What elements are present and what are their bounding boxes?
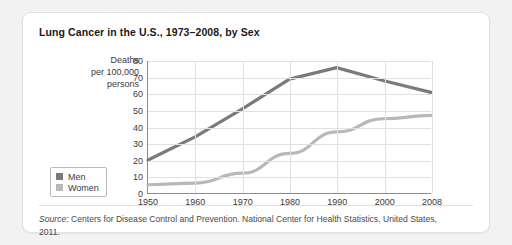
gridline-vertical bbox=[243, 61, 244, 193]
gridline-vertical bbox=[290, 61, 291, 193]
y-axis-label: Deaths per 100,000 persons bbox=[67, 54, 139, 91]
legend-item-women[interactable]: Women bbox=[56, 182, 99, 193]
legend-swatch-men bbox=[56, 173, 63, 180]
gridline-vertical bbox=[385, 61, 386, 193]
legend-item-men[interactable]: Men bbox=[56, 171, 99, 182]
legend-label-men: Men bbox=[68, 172, 86, 182]
y-axis-tick: 40 bbox=[133, 123, 143, 133]
y-axis-label-line-2: per 100,000 bbox=[67, 66, 139, 78]
legend-swatch-women bbox=[56, 184, 63, 191]
y-axis-label-line-3: persons bbox=[67, 78, 139, 90]
gridline-vertical bbox=[337, 61, 338, 193]
source-note: Source: Centers for Disease Control and … bbox=[39, 213, 459, 238]
chart-card: Lung Cancer in the U.S., 1973–2008, by S… bbox=[22, 12, 490, 233]
y-axis-label-line-1: Deaths bbox=[67, 54, 139, 66]
legend-label-women: Women bbox=[68, 183, 99, 193]
page-title: Lung Cancer in the U.S., 1973–2008, by S… bbox=[39, 26, 260, 38]
y-axis-tick: 50 bbox=[133, 106, 143, 116]
plot-area: 0102030405060708019501960197019801990200… bbox=[147, 61, 431, 194]
chart-legend: Men Women bbox=[50, 167, 107, 197]
y-axis-tick: 30 bbox=[133, 139, 143, 149]
y-axis-tick: 60 bbox=[133, 89, 143, 99]
gridline-vertical bbox=[432, 61, 433, 193]
y-axis-tick: 10 bbox=[133, 172, 143, 182]
source-text: Centers for Disease Control and Preventi… bbox=[39, 214, 437, 237]
gridline-vertical bbox=[195, 61, 196, 193]
source-prefix: Source: bbox=[39, 214, 69, 224]
y-axis-tick: 70 bbox=[133, 73, 143, 83]
y-axis-tick: 20 bbox=[133, 156, 143, 166]
y-axis-tick: 80 bbox=[133, 56, 143, 66]
footer-divider bbox=[39, 205, 473, 206]
